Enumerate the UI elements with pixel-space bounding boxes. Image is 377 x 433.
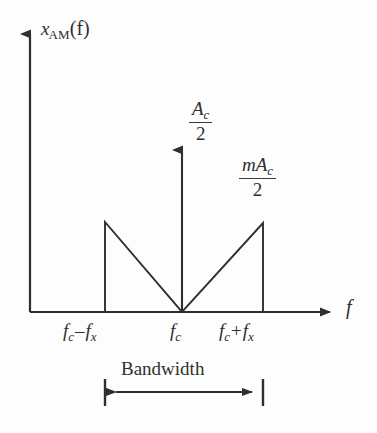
y-axis-label: xAM(f) [41,18,90,41]
bandwidth-label: Bandwidth [121,359,204,378]
tick-label-upper-sideband: fc+fx [219,321,254,343]
sideband-amplitude-fraction: mAc 2 [239,155,276,199]
sideband-amplitude-denominator: 2 [239,179,276,199]
tick-label-lower-sideband: fc–fx [63,321,97,343]
upper-sideband-triangle [182,223,263,312]
sideband-amplitude-numerator: mAc [239,155,276,179]
am-spectrum-figure: xAM(f) f Ac 2 mAc 2 fc–fx fc fc+fx Bandw… [0,0,377,433]
carrier-amplitude-denominator: 2 [189,123,212,143]
x-axis-label: f [346,297,352,317]
y-axis-label-subscript: AM [48,27,69,42]
carrier-amplitude-numerator: Ac [189,99,212,123]
carrier-amplitude-label: Ac 2 [189,99,212,143]
y-axis-label-argument: (f) [70,17,90,39]
lower-sideband-triangle [105,222,182,312]
tick-label-carrier: fc [170,321,181,343]
carrier-amplitude-fraction: Ac 2 [189,99,212,143]
sideband-amplitude-label: mAc 2 [239,155,276,199]
